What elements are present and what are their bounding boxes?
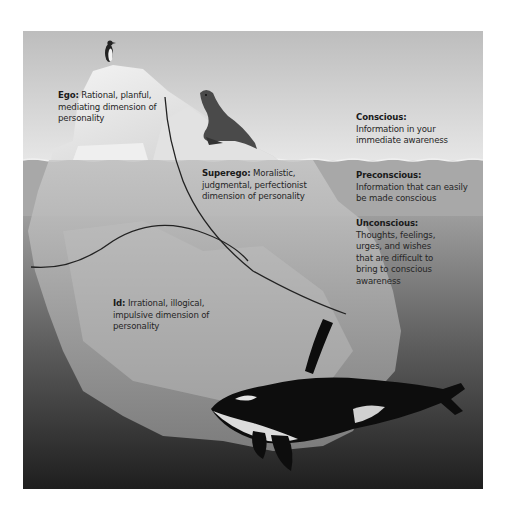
unconscious-description: Thoughts, feelings, urges, and wishes th… (356, 230, 435, 286)
superego-name: Superego: (202, 168, 251, 178)
preconscious-label: Preconscious: Information that can easil… (356, 170, 472, 205)
conscious-label: Conscious: Information in your immediate… (356, 112, 456, 147)
iceberg-diagram: Ego: Rational, planful, mediating dimens… (23, 31, 483, 489)
ego-label: Ego: Rational, planful, mediating dimens… (58, 90, 168, 125)
id-description: Irrational, illogical, impulsive dimensi… (113, 298, 209, 331)
preconscious-description: Information that can easily be made cons… (356, 182, 468, 204)
unconscious-label: Unconscious: Thoughts, feelings, urges, … (356, 218, 442, 288)
id-label: Id: Irrational, illogical, impulsive dim… (113, 298, 217, 333)
ego-name: Ego: (58, 90, 79, 100)
id-name: Id: (113, 298, 125, 308)
conscious-description: Information in your immediate awareness (356, 124, 448, 146)
superego-label: Superego: Moralistic, judgmental, perfec… (202, 168, 314, 203)
conscious-name: Conscious: (356, 112, 456, 124)
preconscious-name: Preconscious: (356, 170, 472, 182)
unconscious-name: Unconscious: (356, 218, 442, 230)
